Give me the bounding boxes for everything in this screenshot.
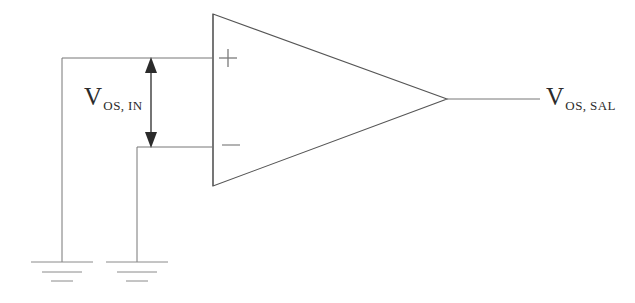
label-input-offset-symbol: V xyxy=(84,83,102,110)
label-output-offset-voltage: VOS, SAL xyxy=(546,84,615,109)
offset-arrow-icon xyxy=(145,57,157,148)
ground-symbol-right xyxy=(106,262,168,281)
label-output-offset-symbol: V xyxy=(546,83,564,110)
plus-icon xyxy=(219,49,237,67)
schematic-figure: VOS, IN VOS, SAL xyxy=(0,0,635,303)
ground-symbol-left xyxy=(31,262,93,281)
label-input-offset-subscript: OS, IN xyxy=(103,98,142,113)
opamp-triangle xyxy=(213,14,447,186)
circuit-schematic xyxy=(0,0,635,303)
label-output-offset-subscript: OS, SAL xyxy=(565,98,615,113)
label-input-offset-voltage: VOS, IN xyxy=(84,84,142,109)
